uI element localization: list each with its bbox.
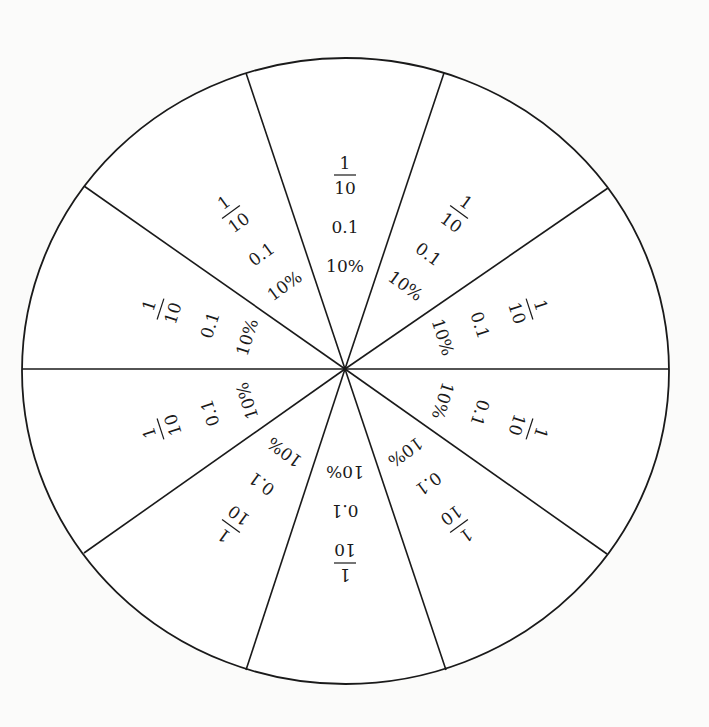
percent-label: 10% (326, 256, 364, 276)
fraction-circle-svg: 1100.110%1100.110%1100.110%1100.110%1100… (0, 0, 709, 727)
fraction-denominator: 10 (334, 540, 356, 560)
fraction-numerator: 1 (340, 565, 351, 585)
percent-label: 10% (326, 462, 364, 482)
decimal-label: 0.1 (331, 217, 358, 237)
decimal-label: 0.1 (331, 501, 358, 521)
fraction-circle-diagram: 1100.110%1100.110%1100.110%1100.110%1100… (0, 0, 709, 727)
fraction-numerator: 1 (340, 153, 351, 173)
fraction-denominator: 10 (334, 178, 356, 198)
